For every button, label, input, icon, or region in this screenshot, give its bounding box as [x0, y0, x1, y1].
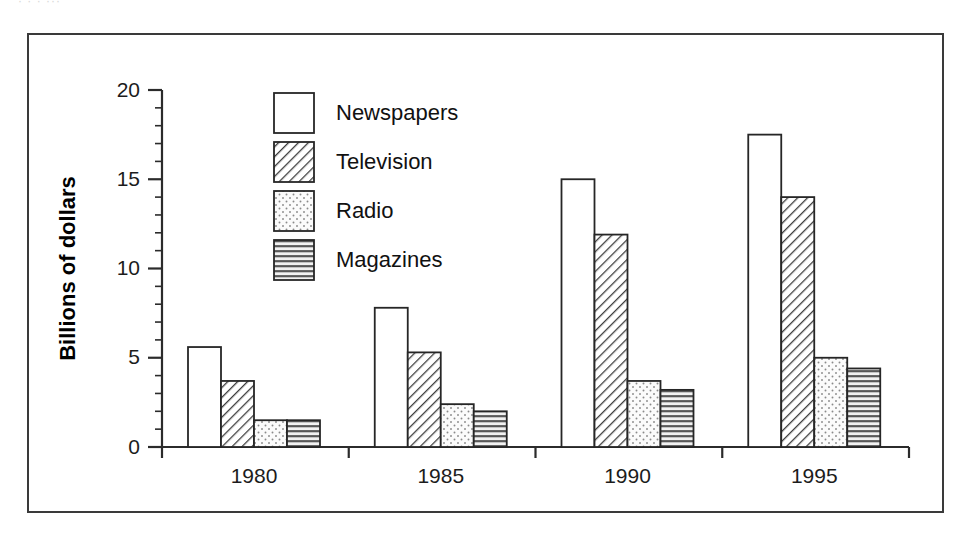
x-tick-label: 1995: [791, 464, 838, 487]
legend-label-newspapers: Newspapers: [336, 100, 458, 125]
bar-magazines-1990: [661, 390, 694, 447]
y-axis-title: Billions of dollars: [55, 176, 80, 361]
bar-magazines-1995: [847, 368, 880, 447]
grouped-bar-chart: 051015201980198519901995NewspapersTelevi…: [29, 35, 946, 515]
chart-legend: NewspapersTelevisionRadioMagazines: [274, 93, 458, 280]
x-tick-label: 1980: [231, 464, 278, 487]
legend-label-television: Television: [336, 149, 433, 174]
bar-magazines-1980: [287, 420, 320, 447]
scan-artifact-top-text: · · · ···: [18, 0, 61, 8]
bar-television-1985: [408, 352, 441, 447]
bar-radio-1980: [254, 420, 287, 447]
plot-area: 051015201980198519901995NewspapersTelevi…: [29, 35, 946, 515]
y-tick-label: 15: [117, 167, 140, 190]
bar-newspapers-1985: [375, 308, 408, 447]
bar-radio-1985: [441, 404, 474, 447]
legend-label-magazines: Magazines: [336, 247, 442, 272]
bar-television-1980: [221, 381, 254, 447]
bar-magazines-1985: [474, 411, 507, 447]
bar-television-1990: [595, 235, 628, 447]
bar-newspapers-1995: [748, 135, 781, 447]
legend-label-radio: Radio: [336, 198, 393, 223]
bar-newspapers-1990: [562, 179, 595, 447]
legend-swatch-television: [274, 142, 314, 182]
bar-television-1995: [781, 197, 814, 447]
bar-radio-1995: [814, 358, 847, 447]
bar-radio-1990: [628, 381, 661, 447]
legend-swatch-magazines: [274, 240, 314, 280]
legend-swatch-radio: [274, 191, 314, 231]
x-tick-label: 1985: [417, 464, 464, 487]
y-tick-label: 5: [128, 345, 140, 368]
figure-frame: 051015201980198519901995NewspapersTelevi…: [27, 33, 944, 513]
x-tick-label: 1990: [604, 464, 651, 487]
y-tick-label: 10: [117, 256, 140, 279]
y-tick-label: 0: [128, 435, 140, 458]
bar-newspapers-1980: [188, 347, 221, 447]
legend-swatch-newspapers: [274, 93, 314, 133]
y-tick-label: 20: [117, 78, 140, 101]
